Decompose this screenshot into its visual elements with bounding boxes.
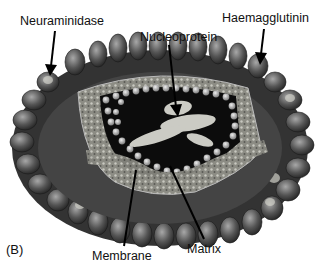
label-matrix: Matrix [187, 243, 221, 256]
influenza-virus-diagram: Neuraminidase Haemagglutinin Nucleoprote… [0, 0, 318, 273]
haemagglutinin-arrow [261, 29, 264, 54]
panel-letter: (B) [6, 243, 23, 256]
label-haemagglutinin: Haemagglutinin [222, 12, 309, 25]
label-membrane: Membrane [92, 250, 152, 263]
label-nucleoprotein: Nucleoprotein [140, 31, 217, 44]
neuraminidase-arrow [51, 31, 55, 66]
label-neuraminidase: Neuraminidase [20, 15, 104, 28]
